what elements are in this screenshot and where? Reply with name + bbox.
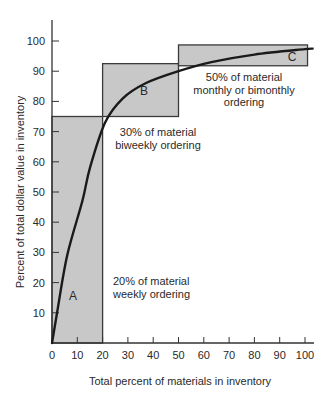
y-tick-label: 20 — [33, 277, 45, 289]
region-label-a: A — [69, 289, 77, 303]
region-label-b: B — [140, 84, 148, 98]
x-axis-title: Total percent of materials in inventory — [89, 375, 272, 387]
abc-analysis-chart: 0102030405060708090100102030405060708090… — [0, 0, 332, 395]
region-annotation-c: 50% of materialmonthly or bimonthlyorder… — [193, 71, 295, 108]
y-tick-label: 90 — [33, 65, 45, 77]
x-tick-label: 60 — [198, 349, 210, 361]
y-tick-label: 50 — [33, 186, 45, 198]
x-tick-label: 90 — [274, 349, 286, 361]
region-label-c: C — [288, 50, 297, 64]
y-tick-label: 80 — [33, 95, 45, 107]
x-tick-label: 10 — [71, 349, 83, 361]
y-tick-label: 100 — [27, 35, 45, 47]
y-axis-title: Percent of total dollar value in invento… — [14, 95, 26, 288]
region-annotation-a: 20% of materialweekly ordering — [112, 275, 190, 300]
y-tick-label: 40 — [33, 216, 45, 228]
x-tick-label: 100 — [296, 349, 314, 361]
y-tick-label: 30 — [33, 246, 45, 258]
y-tick-label: 10 — [33, 307, 45, 319]
x-tick-label: 70 — [223, 349, 235, 361]
x-tick-label: 50 — [172, 349, 184, 361]
region-annotation-b: 30% of materialbiweekly ordering — [115, 126, 201, 151]
x-tick-label: 80 — [248, 349, 260, 361]
x-tick-label: 0 — [49, 349, 55, 361]
x-tick-label: 40 — [147, 349, 159, 361]
y-tick-label: 60 — [33, 156, 45, 168]
x-tick-label: 30 — [122, 349, 134, 361]
x-tick-label: 20 — [96, 349, 108, 361]
y-tick-label: 70 — [33, 126, 45, 138]
